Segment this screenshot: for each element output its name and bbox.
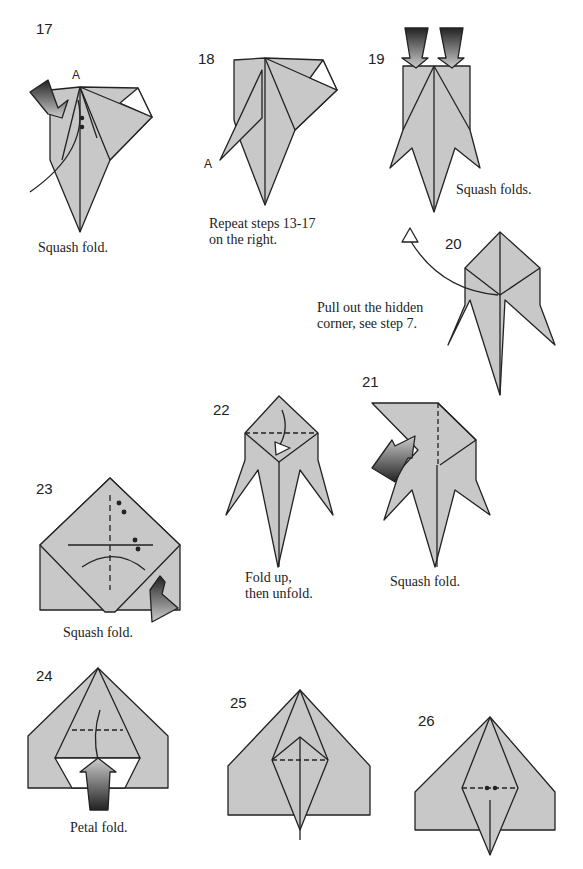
- step-22-number: 22: [213, 401, 230, 418]
- step-18-point-label: A: [204, 157, 212, 171]
- step-17-point-label: A: [72, 68, 80, 82]
- step-20-caption-line1: Pull out the hidden: [317, 300, 423, 316]
- step-22-figure: [226, 396, 333, 567]
- step-25-figure: [228, 690, 370, 840]
- step-20-caption-line2: corner, see step 7.: [317, 316, 417, 332]
- step-23-figure: [40, 478, 180, 622]
- step-19-number: 19: [368, 50, 385, 67]
- step-18-caption-line2: on the right.: [209, 232, 277, 248]
- step-20-figure: [402, 228, 555, 395]
- step-26-number: 26: [418, 712, 435, 729]
- step-18-caption-line1: Repeat steps 13-17: [209, 216, 316, 232]
- step-22-caption-line1: Fold up,: [245, 570, 292, 586]
- diagram-canvas: [0, 0, 583, 869]
- step-17-number: 17: [36, 20, 53, 37]
- step-26-figure: [415, 717, 555, 855]
- step-24-caption: Petal fold.: [70, 820, 128, 836]
- step-21-number: 21: [362, 373, 379, 390]
- step-18-number: 18: [198, 50, 215, 67]
- step-21-caption: Squash fold.: [390, 574, 460, 590]
- step-22-caption-line2: then unfold.: [245, 586, 313, 602]
- step-17-figure: [30, 80, 152, 232]
- step-24-figure: [28, 668, 168, 810]
- step-18-figure: [220, 58, 337, 205]
- step-20-number: 20: [445, 235, 462, 252]
- step-23-number: 23: [36, 480, 53, 497]
- step-21-figure: [372, 403, 490, 567]
- step-17-caption: Squash fold.: [38, 240, 108, 256]
- step-23-caption: Squash fold.: [63, 625, 133, 641]
- step-19-caption: Squash folds.: [456, 182, 531, 198]
- step-24-number: 24: [36, 667, 53, 684]
- step-25-number: 25: [230, 694, 247, 711]
